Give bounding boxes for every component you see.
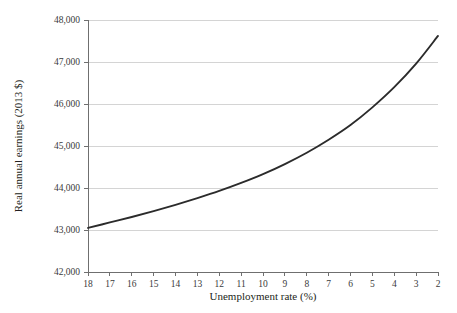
x-tick-label: 12 bbox=[215, 279, 225, 289]
x-tick-label: 2 bbox=[436, 279, 441, 289]
x-tick-label: 11 bbox=[237, 279, 246, 289]
y-axis-title: Real annual earnings (2013 $) bbox=[12, 79, 25, 212]
x-tick-label: 15 bbox=[149, 279, 159, 289]
x-tick-label: 6 bbox=[348, 279, 353, 289]
y-tick-label: 44,000 bbox=[54, 183, 80, 193]
y-axis-tick-labels-group: 42,00043,00044,00045,00046,00047,00048,0… bbox=[54, 15, 80, 277]
x-tick-label: 5 bbox=[370, 279, 375, 289]
gridlines-group bbox=[88, 20, 438, 272]
x-tick-label: 9 bbox=[283, 279, 288, 289]
earnings-vs-unemployment-line-chart: 42,00043,00044,00045,00046,00047,00048,0… bbox=[0, 0, 457, 313]
x-tick-label: 14 bbox=[171, 279, 181, 289]
x-tick-label: 3 bbox=[414, 279, 419, 289]
x-tick-label: 17 bbox=[105, 279, 115, 289]
x-tick-label: 4 bbox=[392, 279, 397, 289]
y-tick-label: 47,000 bbox=[54, 57, 80, 67]
y-axis-ticks-group bbox=[84, 20, 88, 272]
y-tick-label: 45,000 bbox=[54, 141, 80, 151]
y-tick-label: 43,000 bbox=[54, 225, 80, 235]
y-tick-label: 48,000 bbox=[54, 15, 80, 25]
x-tick-label: 16 bbox=[127, 279, 137, 289]
x-axis-tick-labels-group: 18171615141312111098765432 bbox=[83, 279, 440, 289]
x-axis-ticks-group bbox=[88, 272, 438, 276]
x-tick-label: 18 bbox=[83, 279, 93, 289]
x-axis-title: Unemployment rate (%) bbox=[210, 290, 317, 303]
chart-figure: 42,00043,00044,00045,00046,00047,00048,0… bbox=[0, 0, 457, 313]
y-tick-label: 42,000 bbox=[54, 267, 80, 277]
x-tick-label: 10 bbox=[258, 279, 268, 289]
x-tick-label: 13 bbox=[193, 279, 203, 289]
earnings-curve bbox=[88, 36, 438, 228]
y-tick-label: 46,000 bbox=[54, 99, 80, 109]
x-tick-label: 8 bbox=[304, 279, 309, 289]
x-tick-label: 7 bbox=[326, 279, 331, 289]
